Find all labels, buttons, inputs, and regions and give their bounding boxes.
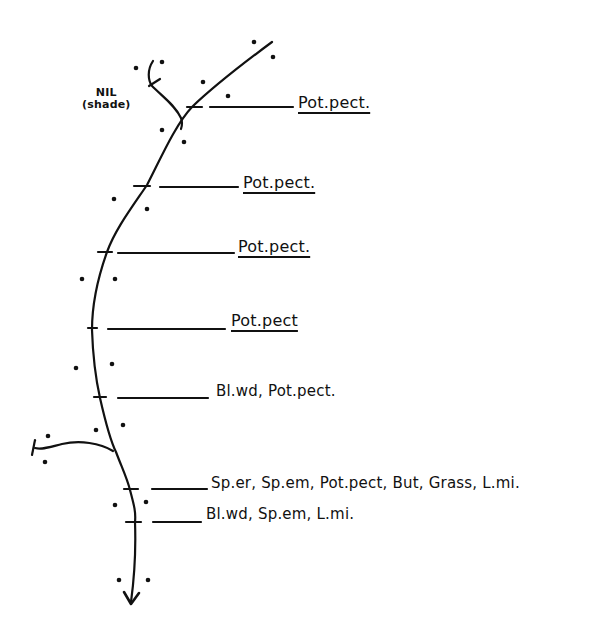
transect-label-7: Bl.wd, Sp.em, L.mi. — [206, 505, 354, 523]
transect-label-6: Sp.er, Sp.em, Pot.pect, But, Grass, L.mi… — [211, 474, 520, 492]
tributary-note: NIL (shade) — [82, 87, 131, 111]
transect-label-4: Pot.pect — [231, 312, 298, 330]
transect-label-5: Bl.wd, Pot.pect. — [216, 382, 336, 400]
transect-label-1: Pot.pect. — [298, 94, 370, 112]
tributary-left-line — [35, 442, 113, 451]
transect-label-2: Pot.pect. — [243, 174, 315, 192]
tributary-left-tick — [32, 440, 35, 455]
transect-label-3: Pot.pect. — [238, 238, 310, 256]
tributary-top-line — [149, 61, 182, 129]
tributary-note-line2: (shade) — [82, 99, 131, 111]
